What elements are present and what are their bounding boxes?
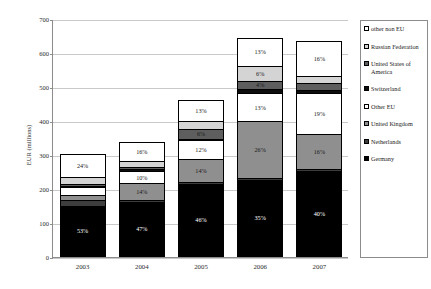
legend-item[interactable]: Switzerland [364,85,425,93]
plot-area: 0100200300400500600700 53%6%5%8%2%2%7%24… [52,20,348,258]
legend-swatch [364,139,369,144]
y-axis-tick-label: 100 [39,221,49,228]
bar-segment-label: 4% [256,82,264,88]
y-axis-tick-mark [50,190,53,191]
x-axis-tick-label: 2007 [296,263,342,270]
bar-column[interactable]: 47%2%14%10%2%2%5%16%2004 [119,142,165,257]
bar-segment[interactable]: 16% [296,41,342,76]
legend-item[interactable]: Other EU [364,103,425,111]
bar-segment-label: 14% [195,168,206,174]
legend-swatch [364,121,369,126]
bar-segment[interactable]: 53% [60,206,106,257]
bar-segment[interactable]: 16% [296,134,342,169]
x-axis-tick-label: 2004 [119,263,165,270]
bar-segment[interactable]: 6% [60,200,106,206]
legend-label: Russian Federation [371,43,419,51]
gridline [53,258,348,259]
bar-segment[interactable]: 6% [178,129,224,139]
bar-segment[interactable]: 46% [178,184,224,257]
bar-segment[interactable]: 7% [60,177,106,184]
chart-legend: other non EURussian FederationUnited Sta… [360,20,428,258]
bar-segment-label: 13% [195,108,206,114]
legend-item[interactable]: other non EU [364,25,425,33]
bar-segment[interactable]: 16% [119,142,165,161]
y-axis-tick-mark [50,54,53,55]
bar-segment[interactable]: 1% [296,169,342,171]
y-axis-tick-label: 300 [39,153,49,160]
bar-segment[interactable]: 6% [237,66,283,80]
y-axis-tick-label: 600 [39,51,49,58]
bar-segment[interactable]: 2% [60,184,106,186]
bar-segment[interactable]: 4% [237,81,283,90]
bar-segment[interactable]: 3% [296,76,342,83]
y-axis-tick-label: 0 [46,255,49,262]
x-axis-tick-label: 2003 [60,263,106,270]
bar-column[interactable]: 53%6%5%8%2%2%7%24%2003 [60,154,106,257]
bar-segment[interactable]: 14% [119,183,165,199]
bar-segment[interactable]: 2% [237,89,283,92]
legend-item[interactable]: United Kingdom [364,120,425,128]
bar-segment-label: 13% [255,49,266,55]
bar-column[interactable]: 46%1%14%12%1%6%5%13%2005 [178,100,224,257]
bar-segment[interactable]: 10% [119,171,165,183]
legend-item[interactable]: Russian Federation [364,43,425,51]
bar-segment[interactable]: 2% [119,200,165,202]
y-axis-tick-mark [50,224,53,225]
bar-segment[interactable]: 13% [237,93,283,122]
bar-segment[interactable]: 5% [119,161,165,167]
y-axis-tick-mark [50,122,53,123]
bar-segment[interactable]: 1% [178,139,224,141]
y-axis-tick-mark [50,88,53,89]
bar-column[interactable]: 35%1%26%13%2%4%6%13%2006 [237,38,283,257]
bar-segment-label: 14% [136,189,147,195]
legend-label: Other EU [371,103,395,111]
bar-segment[interactable]: 26% [237,121,283,178]
bar-segment[interactable]: 5% [60,195,106,200]
bar-segment-label: 13% [255,105,266,111]
legend-item[interactable]: Germany [364,155,425,163]
legend-items-group: other non EURussian FederationUnited Sta… [364,25,425,163]
bar-segment-label: 10% [136,175,147,181]
bar-segment-label: 16% [314,149,325,155]
bar-segment[interactable]: 1% [178,182,224,184]
y-axis-tick-label: 500 [39,85,49,92]
y-axis-tick-mark [50,20,53,21]
bar-segment[interactable]: 5% [178,121,224,129]
bar-segment[interactable]: 13% [237,38,283,67]
bar-segment[interactable]: 12% [178,140,224,159]
legend-label: United Kingdom [371,120,413,128]
bar-segment[interactable]: 47% [119,202,165,257]
bar-segment[interactable]: 2% [296,90,342,93]
bar-segment-label: 12% [195,147,206,153]
bar-column[interactable]: 40%1%16%19%2%3%3%16%2007 [296,41,342,257]
bar-segment[interactable]: 1% [237,178,283,180]
y-axis-tick-label: 400 [39,119,49,126]
x-axis-tick-label: 2005 [178,263,224,270]
bar-segment[interactable]: 2% [60,186,106,188]
bar-segment-label: 6% [197,131,205,137]
bar-segment[interactable]: 14% [178,159,224,181]
bar-segment[interactable]: 3% [296,83,342,89]
gridline [53,20,348,21]
bar-segment[interactable]: 40% [296,171,342,257]
bar-segment[interactable]: 2% [119,169,165,171]
legend-item[interactable]: United States of America [364,60,425,75]
bar-segment[interactable]: 24% [60,154,106,177]
legend-swatch [364,26,369,31]
bar-segment[interactable]: 19% [296,93,342,134]
bar-segment-label: 6% [256,71,264,77]
legend-swatch [364,86,369,91]
y-axis-tick-mark [50,156,53,157]
bar-segment[interactable]: 13% [178,100,224,121]
bar-segment-label: 47% [136,226,147,232]
y-axis-title: EUR (millions) [25,124,32,164]
bar-segment[interactable]: 8% [60,187,106,195]
legend-swatch [364,104,369,109]
legend-label: Germany [371,155,394,163]
bar-segment[interactable]: 35% [237,180,283,257]
bar-segment[interactable]: 2% [119,167,165,169]
legend-item[interactable]: Netherlands [364,138,425,146]
bar-segment-label: 46% [195,217,206,223]
legend-swatch [364,44,369,49]
bar-segment-label: 16% [314,56,325,62]
